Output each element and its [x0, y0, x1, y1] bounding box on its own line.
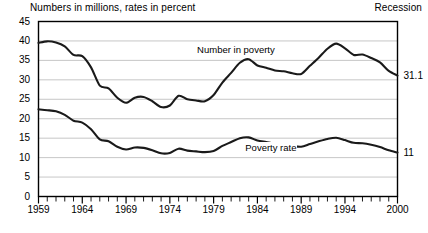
y-axis-tick-label: 5: [2, 172, 30, 182]
series-annotation-number-in-poverty: Number in poverty: [196, 44, 276, 55]
chart-svg: [0, 0, 428, 233]
x-axis-tick-label: 1979: [194, 205, 234, 215]
x-axis-tick-label: 1969: [106, 205, 146, 215]
y-axis-tick-label: 15: [2, 133, 30, 143]
y-axis-tick-label: 10: [2, 153, 30, 163]
x-axis-tick-label: 1974: [150, 205, 190, 215]
end-label-number-in-poverty: 31.1: [404, 71, 423, 81]
y-axis-tick-label: 30: [2, 75, 30, 85]
end-label-poverty-rate: 11: [404, 148, 414, 158]
poverty-chart-screenshot: Numbers in millions, rates in percent Re…: [0, 0, 428, 233]
x-axis-tick-label: 1994: [325, 205, 365, 215]
gridlines: [39, 41, 398, 177]
x-axis-tick-label: 1989: [281, 205, 321, 215]
x-axis-tick-label: 1984: [237, 205, 277, 215]
chart-plot-area: [0, 0, 428, 233]
x-axis-tick-label: 1959: [19, 205, 59, 215]
y-axis-tick-label: 0: [2, 192, 30, 202]
y-axis-tick-label: 35: [2, 55, 30, 65]
y-axis-tick-label: 40: [2, 36, 30, 46]
series-line-poverty-rate: [39, 109, 398, 153]
y-axis-tick-label: 25: [2, 94, 30, 104]
x-axis-tick-label: 2000: [378, 205, 418, 215]
x-axis-tick-label: 1964: [62, 205, 102, 215]
y-axis-tick-label: 20: [2, 114, 30, 124]
y-axis-tick-label: 45: [2, 17, 30, 27]
x-axis-ticks: [39, 197, 398, 204]
series-annotation-poverty-rate: Poverty rate: [244, 142, 297, 153]
